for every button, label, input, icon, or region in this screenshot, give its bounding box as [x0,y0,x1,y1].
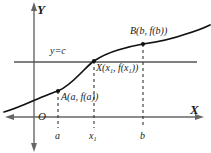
y-axis-label: Y [37,3,45,16]
point-marker-b [141,42,145,46]
x-tick-label-x1: x1 [89,131,97,141]
point-label-x-sub1: 1 [110,67,113,74]
x-tick-label-a: a [55,131,60,141]
x-tick-label-x1-sub: 1 [93,135,96,142]
point-label-x-sub2: 1 [129,67,132,74]
point-label-b: B(b, f(b)) [130,26,167,36]
diagram-canvas [0,0,211,153]
function-diagram: Y X O y=c A(a, f(a)) X(x1, f(x1)) B(b, f… [0,0,211,153]
point-label-a: A(a, f(a)) [61,92,98,102]
point-label-x-suffix: )) [132,62,139,73]
point-label-x-prefix: X(x [96,62,110,73]
point-label-x-mid: , f(x [113,62,129,73]
y-axis [31,2,37,152]
origin-label: O [38,111,46,122]
point-label-x: X(x1, f(x1)) [96,63,138,73]
x-axis [5,114,204,120]
x-tick-label-b: b [140,131,145,141]
x-axis-label: X [190,103,199,116]
horizontal-line-label: y=c [50,46,66,56]
point-marker-a [56,89,60,93]
